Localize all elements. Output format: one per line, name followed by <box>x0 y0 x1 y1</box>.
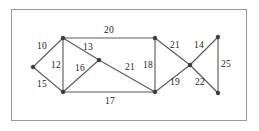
edge-weight-label-GH: 14 <box>194 41 204 51</box>
edge-weight-label-AB: 10 <box>37 42 47 52</box>
edge-weight-label-DF: 21 <box>125 63 135 73</box>
edge-weight-label-CD: 16 <box>75 64 85 74</box>
edge-weight-label-EF: 18 <box>143 61 153 71</box>
edge-weight-label-BD: 13 <box>83 43 93 53</box>
graph-node-A <box>31 65 35 69</box>
graph-node-H <box>216 35 220 39</box>
graph-node-B <box>61 36 65 40</box>
edge-weight-label-BC: 12 <box>51 61 61 71</box>
graph-node-I <box>216 91 220 95</box>
edge-weight-label-AC: 15 <box>37 80 47 90</box>
graph-node-D <box>97 58 101 62</box>
edge-weight-label-HI: 25 <box>221 60 231 70</box>
edge-weight-label-GI: 22 <box>195 78 205 88</box>
graph-node-G <box>188 63 192 67</box>
edge-weight-label-FG: 19 <box>170 78 180 88</box>
edge-weight-label-EG: 21 <box>170 41 180 51</box>
edge-weight-label-CF: 17 <box>105 97 115 107</box>
graph-node-C <box>61 90 65 94</box>
graph-edge-BD <box>63 38 99 60</box>
graph-node-E <box>153 36 157 40</box>
figure-root: 1015121320161721182119142225 <box>0 0 259 131</box>
edge-weight-label-BE: 20 <box>104 26 114 36</box>
graph-node-F <box>153 90 157 94</box>
